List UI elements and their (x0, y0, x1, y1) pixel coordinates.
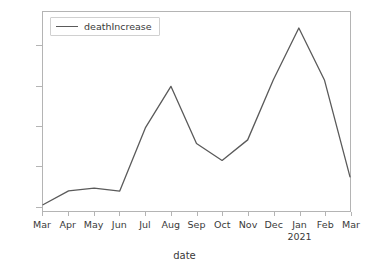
x-tick-mark (274, 212, 275, 216)
x-tick-label: Oct (214, 219, 230, 230)
x-tick-label: Nov (239, 219, 258, 230)
x-tick-mark (351, 212, 352, 216)
plot-area (42, 11, 351, 212)
x-tick-label: Sep (188, 219, 206, 230)
y-tick-mark (36, 166, 42, 167)
x-tick-mark (300, 212, 301, 216)
x-tick-label: Feb (317, 219, 334, 230)
chart-figure: 02000400060008000 MarAprMayJunJulAugSepO… (0, 0, 369, 273)
legend-label-deathincrease: deathIncrease (84, 21, 152, 32)
chart-legend: deathIncrease (50, 17, 160, 36)
x-tick-mark (119, 212, 120, 216)
y-tick-mark (36, 86, 42, 87)
x-tick-mark (94, 212, 95, 216)
x-tick-label: Apr (60, 219, 76, 230)
series-line-deathincrease (43, 28, 350, 205)
x-tick-label: May (84, 219, 104, 230)
x-tick-label: Dec (265, 219, 283, 230)
x-tick-mark (325, 212, 326, 216)
y-tick-mark (36, 45, 42, 46)
x-tick-label: Mar (342, 219, 360, 230)
line-series-svg (43, 12, 350, 211)
x-tick-label: Jun (112, 219, 127, 230)
x-axis-label: date (0, 250, 369, 261)
x-tick-mark (248, 212, 249, 216)
x-tick-mark (68, 212, 69, 216)
legend-line-swatch (56, 26, 78, 27)
x-tick-mark (197, 212, 198, 216)
x-tick-mark (145, 212, 146, 216)
x-tick-sublabel: 2021 (287, 231, 311, 242)
y-tick-mark (36, 207, 42, 208)
x-tick-label: Jul (139, 219, 150, 230)
x-tick-mark (171, 212, 172, 216)
x-tick-mark (42, 212, 43, 216)
x-tick-label: Aug (161, 219, 180, 230)
y-tick-mark (36, 126, 42, 127)
x-tick-label: Jan (292, 219, 307, 230)
x-tick-label: Mar (33, 219, 51, 230)
x-tick-mark (222, 212, 223, 216)
